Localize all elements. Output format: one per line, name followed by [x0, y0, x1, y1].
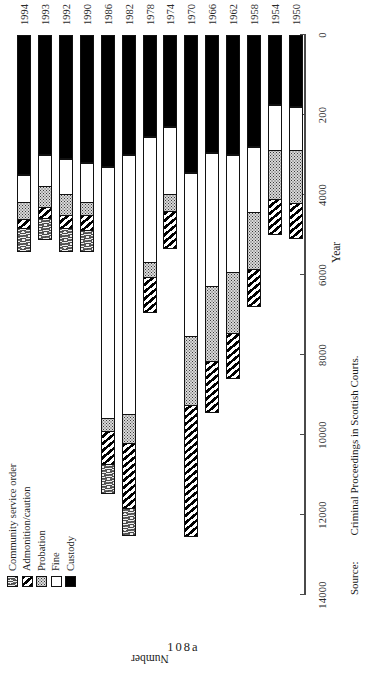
axis-tick	[300, 594, 306, 595]
category-label-1970: 1970	[186, 4, 197, 25]
bar-segment-probation	[184, 336, 198, 406]
bar-segment-admonition	[226, 333, 240, 379]
bar-segment-fine	[184, 173, 198, 337]
bar-segment-admonition	[247, 269, 261, 307]
stacked-bar-1970	[184, 35, 198, 539]
bar-segment-custody	[59, 35, 73, 159]
category-label-1950: 1950	[290, 4, 301, 25]
source-label: Source:	[348, 561, 360, 595]
bar-segment-custody	[247, 35, 261, 147]
bar-segment-admonition	[59, 215, 73, 229]
stacked-bar-1962	[226, 35, 240, 381]
bar-segment-custody	[163, 35, 177, 127]
bar-segment-admonition	[268, 199, 282, 235]
bar-segment-admonition	[143, 277, 157, 313]
bar-segment-fine	[268, 105, 282, 151]
bar-segment-probation	[17, 202, 31, 220]
bar-segment-fine	[122, 155, 136, 415]
category-label-1962: 1962	[228, 4, 239, 25]
bar-segment-custody	[17, 35, 31, 175]
category-label-1966: 1966	[207, 4, 218, 25]
bar-segment-probation	[80, 202, 94, 216]
axis-tick	[300, 354, 306, 355]
bar-segment-custody	[80, 35, 94, 163]
bar-segment-probation	[38, 186, 52, 208]
axis-tick-label: 10000	[317, 421, 328, 448]
category-label-1974: 1974	[165, 4, 176, 25]
bar-segment-probation	[143, 262, 157, 278]
bar-segment-admonition	[163, 211, 177, 249]
bar-segment-admonition	[38, 207, 52, 219]
bar-segment-cso	[101, 464, 115, 494]
bar-segment-probation	[101, 418, 115, 432]
value-axis-line	[304, 35, 306, 595]
axis-tick-label: 0	[317, 32, 328, 37]
axis-tick-label: 12000	[317, 501, 328, 528]
bar-segment-fine	[59, 159, 73, 195]
bar-segment-admonition	[80, 215, 94, 231]
source-text: Criminal Proceedings in Scottish Courts.	[348, 355, 360, 535]
bar-segment-fine	[80, 163, 94, 203]
bar-segment-probation	[226, 272, 240, 334]
bar-segment-cso	[122, 508, 136, 536]
bar-segment-fine	[17, 175, 31, 203]
bar-segment-admonition	[289, 203, 303, 239]
category-label-1992: 1992	[61, 4, 72, 25]
category-axis-title: Year	[330, 242, 342, 263]
stacked-bar-1950	[289, 35, 303, 241]
bar-segment-probation	[59, 194, 73, 216]
source-note: Source:Criminal Proceedings in Scottish …	[348, 355, 360, 595]
bar-segment-probation	[247, 212, 261, 270]
bar-segment-cso	[59, 228, 73, 252]
category-label-1990: 1990	[82, 4, 93, 25]
bar-segment-custody	[226, 35, 240, 155]
stacked-bar-1966	[205, 35, 219, 415]
bar-segment-probation	[163, 194, 177, 212]
bar-segment-admonition	[101, 431, 115, 465]
category-label-1978: 1978	[144, 4, 155, 25]
bar-segment-fine	[226, 155, 240, 273]
axis-tick-label: 200	[317, 107, 328, 123]
bar-segment-probation	[205, 286, 219, 362]
stacked-bar-1994	[17, 35, 31, 255]
bar-segment-admonition	[17, 219, 31, 229]
stacked-bar-1978	[143, 35, 157, 315]
bar-segment-custody	[205, 35, 219, 153]
bar-segment-custody	[38, 35, 52, 155]
stacked-bar-1974	[163, 35, 177, 251]
axis-tick-label: 4000	[317, 184, 328, 206]
stacked-bar-1993	[38, 35, 52, 243]
rotated-figure-stage: Community service orderAdmonition/cautio…	[0, 0, 367, 683]
bar-segment-fine	[143, 137, 157, 263]
bar-segment-custody	[184, 35, 198, 173]
category-label-1994: 1994	[19, 4, 30, 25]
axis-tick	[300, 434, 306, 435]
bar-segment-probation	[289, 150, 303, 204]
bar-segment-fine	[289, 107, 303, 151]
category-label-1954: 1954	[269, 4, 280, 25]
bar-segment-probation	[122, 414, 136, 444]
bar-segment-admonition	[122, 443, 136, 509]
category-label-1993: 1993	[40, 4, 51, 25]
bar-segment-admonition	[184, 405, 198, 537]
stacked-bar-1986	[101, 35, 115, 497]
bar-segment-probation	[268, 150, 282, 200]
axis-tick-label: 14000	[317, 581, 328, 608]
stacked-bar-1992	[59, 35, 73, 255]
bar-segment-custody	[101, 35, 115, 167]
bar-segment-custody	[143, 35, 157, 137]
bar-segment-fine	[38, 155, 52, 187]
bar-segment-custody	[289, 35, 303, 107]
bar-segment-fine	[205, 153, 219, 287]
bar-segment-cso	[38, 218, 52, 240]
bar-segment-admonition	[205, 361, 219, 413]
bar-segment-custody	[268, 35, 282, 105]
bar-segment-custody	[122, 35, 136, 155]
axis-tick-label: 8000	[317, 344, 328, 366]
bar-segment-fine	[247, 147, 261, 213]
page-folio: 108a	[0, 640, 367, 655]
bar-segment-cso	[80, 230, 94, 252]
axis-tick	[300, 274, 306, 275]
bar-segment-fine	[101, 167, 115, 419]
bar-segment-cso	[17, 228, 31, 252]
